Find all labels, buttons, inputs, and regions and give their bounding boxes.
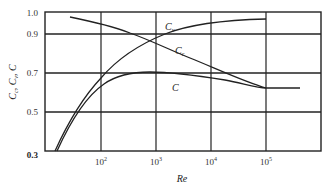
y-tick-0.7: 0.7 (27, 68, 39, 78)
plot-frame (45, 12, 321, 151)
label-cc: Cc (175, 45, 185, 57)
y-axis-label: Cc, Cv, C (7, 64, 19, 100)
x-tick-1e4: 104 (205, 156, 217, 167)
y-tick-0.9: 0.9 (27, 29, 39, 39)
y-tick-0.5: 0.5 (27, 107, 39, 117)
x-tick-1e5: 105 (260, 156, 272, 167)
x-axis-label: Re (176, 173, 188, 184)
x-tick-1e2: 102 (95, 156, 107, 167)
y-tick-labels: 1.0 0.9 0.7 0.5 0.3 (27, 8, 39, 160)
x-tick-labels: 102 103 104 105 (95, 156, 272, 167)
label-cv: Cv (165, 21, 175, 33)
curve-labels: Cv Cc C (165, 21, 185, 93)
chart: Cv Cc C 1.0 0.9 0.7 0.5 0.3 Cc, Cv, C 10… (0, 0, 330, 193)
label-c: C (172, 82, 179, 93)
y-tick-0.3: 0.3 (27, 150, 39, 160)
svg-text:Cc, Cv, C: Cc, Cv, C (7, 64, 19, 100)
x-tick-1e3: 103 (150, 156, 162, 167)
y-tick-1.0: 1.0 (27, 8, 39, 18)
curve-cv (55, 19, 266, 151)
grid (45, 12, 321, 151)
